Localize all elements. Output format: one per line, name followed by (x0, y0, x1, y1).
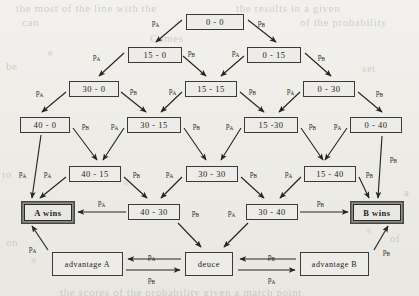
edge-label-p-b: pB (383, 248, 390, 257)
edge-label-p-b: pB (192, 209, 199, 218)
edge-0-15-to-15-15 (221, 56, 244, 76)
node-advA[interactable]: advantage A (52, 252, 123, 276)
edge-40-0-to-A-wins (32, 135, 41, 198)
edge-label-p-b: pB (148, 276, 155, 285)
edge-label-p-b: pB (317, 199, 324, 208)
edge-30-15-to-40-15 (103, 128, 124, 160)
node-n1530[interactable]: 15 -30 (244, 117, 298, 133)
edge-label-p-b: pB (82, 122, 89, 131)
edge-label-p-a: pA (287, 87, 294, 96)
edge-15-40-to-B-wins (359, 177, 369, 198)
edge-label-p-a: pA (29, 245, 36, 254)
edge-label-p-b: pB (268, 253, 275, 262)
node-n015[interactable]: 0 - 15 (247, 47, 301, 63)
node-n4030[interactable]: 40 - 30 (128, 204, 180, 220)
node-n400[interactable]: 40 - 0 (20, 117, 70, 133)
edge-0-40-to-B-wins (378, 136, 382, 198)
edge-label-p-b: pB (130, 87, 137, 96)
node-n030[interactable]: 0 - 30 (303, 81, 355, 97)
node-awins[interactable]: A wins (24, 204, 72, 221)
edge-0-0-to-15-0 (156, 20, 182, 42)
edge-label-p-b: pB (366, 170, 373, 179)
node-n040[interactable]: 0 - 40 (350, 117, 402, 133)
node-n1515[interactable]: 15 - 15 (185, 81, 237, 97)
edge-label-p-a: pA (232, 49, 239, 58)
edge-label-p-a: pA (36, 89, 43, 98)
edge-label-p-a: pA (268, 276, 275, 285)
edge-label-p-a: pA (334, 122, 341, 131)
edge-label-p-b: pB (193, 122, 200, 131)
edge-40-15-to-A-wins (40, 177, 66, 198)
edge-label-p-b: pB (318, 53, 325, 62)
edge-label-p-a: pA (44, 170, 51, 179)
edge-30-30-to-30-40 (241, 177, 264, 198)
edge-label-p-a: pA (19, 170, 26, 179)
edge-15-0-to-30-0 (99, 53, 124, 76)
edge-30-30-to-40-30 (161, 177, 182, 198)
edge-label-p-a: pA (166, 170, 173, 179)
node-bwins[interactable]: B wins (353, 204, 401, 221)
edge-label-p-b: pB (133, 170, 140, 179)
edge-30-0-to-40-0 (42, 92, 66, 112)
edge-advantage-B-to-B-wins (374, 226, 388, 250)
node-n00[interactable]: 0 - 0 (186, 14, 244, 30)
edge-40-0-to-40-15 (73, 128, 97, 160)
edge-40-15-to-40-30 (124, 177, 147, 198)
edge-label-p-a: pA (169, 87, 176, 96)
edge-label-p-a: pA (226, 122, 233, 131)
edge-30-40-to-deuce (224, 223, 248, 247)
edge-label-p-a: pA (285, 170, 292, 179)
edge-label-p-b: pB (250, 170, 257, 179)
edge-15-40-to-30-40 (280, 177, 301, 198)
edge-label-p-b: pB (309, 122, 316, 131)
edge-label-p-a: pA (148, 253, 155, 262)
edge-label-p-b: pB (249, 87, 256, 96)
node-n1540[interactable]: 15 - 40 (304, 166, 356, 182)
edge-label-p-b: pB (188, 49, 195, 58)
edge-label-p-a: pA (152, 19, 159, 28)
node-n3040[interactable]: 30 - 40 (246, 204, 298, 220)
edge-label-p-b: pB (258, 19, 265, 28)
node-advB[interactable]: advantage B (300, 252, 369, 276)
node-n300[interactable]: 30 - 0 (69, 81, 119, 97)
edge-15-30-to-30-30 (221, 128, 241, 160)
edge-15-30-to-15-40 (301, 128, 323, 160)
edge-label-p-b: pB (376, 89, 383, 98)
node-n150[interactable]: 15 - 0 (128, 47, 182, 63)
node-deuce[interactable]: deuce (185, 252, 233, 276)
edge-label-p-a: pA (111, 122, 118, 131)
edge-15-0-to-15-15 (183, 56, 206, 76)
edge-label-p-a: pA (98, 199, 105, 208)
edge-0-40-to-15-40 (325, 128, 347, 160)
edge-label-p-a: pA (228, 209, 235, 218)
edge-label-p-a: pA (93, 53, 100, 62)
edge-30-15-to-30-30 (184, 128, 206, 160)
node-n4015[interactable]: 40 - 15 (69, 166, 121, 182)
node-n3015[interactable]: 30 - 15 (127, 117, 181, 133)
edge-40-30-to-deuce (178, 223, 201, 247)
edge-label-p-b: pB (390, 155, 397, 164)
node-n3030[interactable]: 30 - 30 (186, 166, 238, 182)
